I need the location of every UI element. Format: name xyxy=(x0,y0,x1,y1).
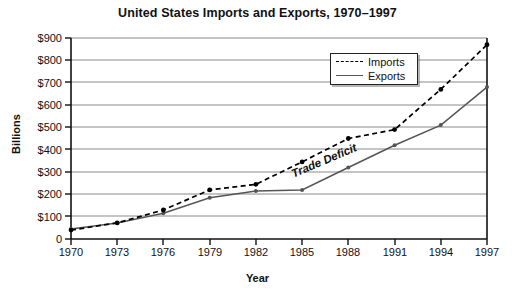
series-line-imports xyxy=(71,45,487,230)
axis-lines xyxy=(71,38,487,239)
y-axis-ticks xyxy=(65,38,71,239)
data-point-imports-1973 xyxy=(115,221,120,226)
data-point-imports-1982 xyxy=(254,182,259,187)
plot-area xyxy=(0,0,515,296)
chart-legend: Imports Exports xyxy=(330,53,418,85)
data-point-imports-1997 xyxy=(485,42,490,47)
data-point-imports-1988 xyxy=(346,136,351,141)
data-point-exports-1997 xyxy=(485,85,489,89)
data-point-imports-1976 xyxy=(161,208,166,213)
data-point-exports-1982 xyxy=(254,189,258,193)
x-axis-ticks xyxy=(71,239,487,245)
legend-label-imports: Imports xyxy=(368,57,405,68)
data-point-imports-1979 xyxy=(207,188,212,193)
data-point-imports-1991 xyxy=(392,127,397,132)
data-point-exports-1988 xyxy=(346,166,350,170)
data-point-imports-1994 xyxy=(438,87,443,92)
series-line-exports xyxy=(71,87,487,229)
legend-label-exports: Exports xyxy=(368,71,405,82)
series-markers-exports xyxy=(69,85,489,231)
chart-container: United States Imports and Exports, 1970–… xyxy=(0,0,515,296)
data-point-exports-1991 xyxy=(393,143,397,147)
legend-item-imports: Imports xyxy=(336,55,405,69)
grid-lines xyxy=(71,38,487,216)
data-point-exports-1985 xyxy=(300,188,304,192)
solid-line-key-icon xyxy=(336,71,363,81)
data-point-exports-1979 xyxy=(208,196,212,200)
data-point-exports-1994 xyxy=(439,123,443,127)
data-point-imports-1970 xyxy=(69,228,74,233)
series-markers-imports xyxy=(69,42,490,232)
dashed-line-key-icon xyxy=(336,57,363,67)
legend-item-exports: Exports xyxy=(336,69,405,83)
